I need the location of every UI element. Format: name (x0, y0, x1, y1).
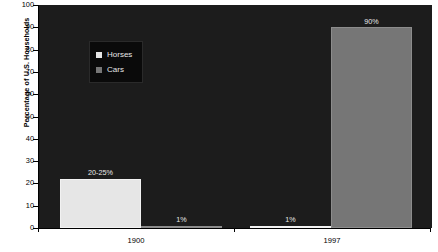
legend-item-cars[interactable]: Cars (96, 62, 132, 77)
chart-title-clipped (0, 0, 438, 3)
x-tick-mark (234, 228, 235, 232)
x-tick-label-1997: 1997 (324, 236, 341, 245)
legend-label-horses: Horses (107, 50, 132, 59)
bar-label-cars-1900: 1% (141, 215, 222, 224)
x-tick-label-1900: 1900 (128, 236, 145, 245)
bar-label-horses-1997: 1% (250, 215, 331, 224)
legend: Horses Cars (89, 41, 143, 83)
bar-cars-1997[interactable] (331, 27, 412, 228)
plot-area: 20-25% 1% 1% 90% Horses Cars (38, 5, 432, 228)
x-tick-mark (38, 228, 39, 232)
bar-label-horses-1900: 20-25% (60, 168, 141, 177)
x-tick-mark (430, 228, 431, 232)
legend-item-horses[interactable]: Horses (96, 47, 132, 62)
bar-horses-1900[interactable] (60, 179, 141, 228)
legend-label-cars: Cars (107, 65, 124, 74)
legend-swatch-cars-icon (96, 67, 102, 73)
y-axis: 100 90 80 70 60 50 40 30 20 10 0 (0, 0, 38, 228)
bar-chart: Percentage of U.S. Households 100 90 80 … (0, 0, 438, 252)
legend-swatch-horses-icon (96, 52, 102, 58)
bar-label-cars-1997: 90% (331, 17, 412, 26)
